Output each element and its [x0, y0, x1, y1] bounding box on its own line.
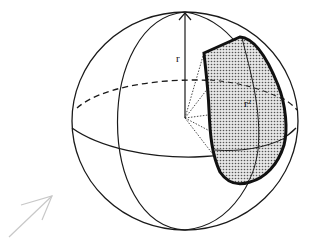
- meridian: [118, 12, 186, 230]
- direction-arrow: [9, 196, 52, 237]
- sphere-diagram: r r²: [0, 0, 315, 243]
- radius-label: r: [176, 52, 180, 64]
- shaded-patch: [204, 37, 286, 184]
- area-label: r²: [244, 97, 252, 109]
